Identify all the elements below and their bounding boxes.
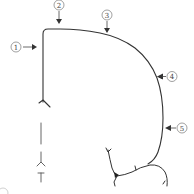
callout-5-number: 5 xyxy=(180,125,184,133)
callout-2-number: 2 xyxy=(57,2,61,10)
callout-1: 1 xyxy=(11,42,37,52)
arrow-right-icon xyxy=(32,44,37,50)
root-branch xyxy=(106,148,167,186)
callout-3: 3 xyxy=(102,10,112,33)
arrow-down-icon xyxy=(56,19,62,24)
partial-circle xyxy=(0,188,8,194)
callout-3-number: 3 xyxy=(105,12,109,20)
outline-path xyxy=(43,29,163,164)
callout-2: 2 xyxy=(54,0,64,24)
arrow-down-icon xyxy=(104,28,110,33)
lower-stem xyxy=(37,123,45,182)
callout-5: 5 xyxy=(165,123,187,133)
callout-1-number: 1 xyxy=(14,44,18,52)
main-outline xyxy=(39,29,163,164)
stem-fork xyxy=(39,100,50,107)
outline-diagram: 1 2 3 4 5 xyxy=(0,0,194,194)
callout-4: 4 xyxy=(157,72,177,82)
callout-4-number: 4 xyxy=(170,73,175,81)
